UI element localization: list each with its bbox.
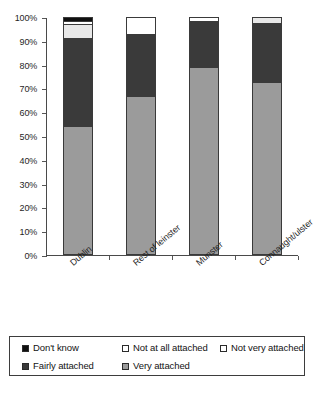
y-axis-tick-label: 10% (20, 228, 37, 237)
bar-segment (127, 97, 155, 254)
bar-segment (127, 35, 155, 98)
plot-wrapper: 0%10%20%30%40%50%60%70%80%90%100% Dublin… (0, 10, 317, 265)
bar-segment (190, 68, 218, 254)
y-axis: 0%10%20%30%40%50%60%70%80%90%100% (0, 10, 42, 256)
legend-swatch-icon (220, 345, 227, 352)
plot-area (46, 18, 298, 256)
bar-segment (64, 127, 92, 254)
x-axis-category-labels: DublinRest of leinsterMunsterConnaught/u… (46, 260, 306, 320)
bar-stack (63, 17, 93, 255)
y-axis-tick-label: 60% (20, 109, 37, 118)
legend-item[interactable]: Very attached (122, 357, 190, 375)
legend-item[interactable]: Not very attached (220, 339, 304, 357)
bar-column (252, 17, 282, 255)
stacked-bar-chart: 0%10%20%30%40%50%60%70%80%90%100% Dublin… (0, 0, 317, 395)
y-axis-tick-label: 0% (24, 252, 37, 261)
legend-row: Don't knowNot at all attachedNot very at… (10, 339, 304, 357)
y-axis-line (46, 18, 47, 257)
bar-stack (252, 17, 282, 255)
bar-column (126, 17, 156, 255)
y-axis-tick-label: 80% (20, 61, 37, 70)
bar-stack (126, 17, 156, 255)
legend-label: Very attached (133, 361, 190, 371)
bar-segment (190, 22, 218, 68)
y-axis-tick-label: 40% (20, 156, 37, 165)
y-axis-tick-label: 20% (20, 204, 37, 213)
y-axis-tick-label: 70% (20, 85, 37, 94)
bar-segment (64, 39, 92, 126)
legend-swatch-icon (122, 345, 129, 352)
bar-stack (189, 17, 219, 255)
bar-column (63, 17, 93, 255)
legend-label: Not very attached (231, 343, 304, 353)
legend-swatch-icon (22, 363, 29, 370)
legend-row: Fairly attachedVery attached (10, 357, 304, 375)
legend-item[interactable]: Fairly attached (22, 357, 94, 375)
legend-label: Fairly attached (33, 361, 94, 371)
bar-segment (127, 18, 155, 35)
legend-label: Not at all attached (133, 343, 208, 353)
legend-item[interactable]: Not at all attached (122, 339, 208, 357)
legend-item[interactable]: Don't know (22, 339, 79, 357)
y-axis-tick-label: 100% (15, 14, 37, 23)
legend-swatch-icon (122, 363, 129, 370)
legend-swatch-icon (22, 345, 29, 352)
y-axis-tick-label: 90% (20, 37, 37, 46)
y-axis-tick-label: 50% (20, 133, 37, 142)
bar-segment (253, 83, 281, 254)
bar-segment (253, 24, 281, 83)
bar-column (189, 17, 219, 255)
bar-segment (64, 25, 92, 39)
y-axis-tick-label: 30% (20, 180, 37, 189)
chart-legend: Don't knowNot at all attachedNot very at… (9, 336, 305, 376)
legend-label: Don't know (33, 343, 79, 353)
